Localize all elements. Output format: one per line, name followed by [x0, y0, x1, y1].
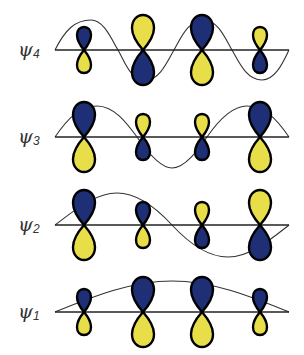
psi-1-symbol: ψ	[18, 300, 34, 322]
lobe-blue	[191, 277, 213, 312]
lobe-yellow	[77, 50, 91, 73]
svg-text:ψ4: ψ4	[18, 38, 40, 61]
orbital-psi-3: ψ3	[18, 102, 289, 172]
lobe-yellow	[249, 137, 271, 172]
lobe-blue	[249, 102, 271, 137]
lobe-yellow	[132, 312, 154, 347]
psi-2-subscript: 2	[32, 222, 40, 236]
lobe-yellow	[132, 15, 154, 50]
lobe-yellow	[136, 114, 150, 137]
lobe-yellow	[136, 225, 150, 248]
orbital-psi-1: ψ1	[18, 277, 289, 347]
lobe-blue	[136, 137, 150, 160]
psi-4-symbol: ψ	[18, 38, 34, 60]
lobe-blue	[77, 27, 91, 50]
lobe-yellow	[195, 114, 209, 137]
lobe-yellow	[253, 27, 267, 50]
svg-text:ψ1: ψ1	[18, 300, 40, 323]
lobe-yellow	[191, 312, 213, 347]
lobe-blue	[77, 289, 91, 312]
lobe-yellow	[249, 190, 271, 225]
lobe-blue	[136, 202, 150, 225]
psi-1-subscript: 1	[33, 309, 40, 323]
lobe-blue	[253, 50, 267, 73]
psi-2-symbol: ψ	[18, 213, 34, 235]
lobe-blue	[253, 289, 267, 312]
lobe-yellow	[191, 50, 213, 85]
lobe-blue	[132, 50, 154, 85]
lobe-yellow	[253, 312, 267, 335]
lobe-yellow	[73, 137, 95, 172]
psi-3-subscript: 3	[33, 134, 40, 148]
psi-4-subscript: 4	[33, 47, 40, 61]
molecular-orbital-diagram: ψ4 ψ3	[0, 0, 304, 355]
lobe-blue	[73, 190, 95, 225]
lobe-blue	[195, 225, 209, 248]
lobe-yellow	[77, 312, 91, 335]
psi-3-symbol: ψ	[18, 125, 34, 147]
lobe-blue	[73, 102, 95, 137]
lobe-blue	[191, 15, 213, 50]
lobe-yellow	[195, 202, 209, 225]
svg-text:ψ2: ψ2	[18, 213, 40, 236]
orbital-psi-2: ψ2	[18, 190, 289, 260]
svg-text:ψ3: ψ3	[18, 125, 40, 148]
lobe-yellow	[73, 225, 95, 260]
lobe-blue	[249, 225, 271, 260]
orbital-psi-4: ψ4	[18, 15, 289, 85]
lobe-blue	[132, 277, 154, 312]
lobe-blue	[195, 137, 209, 160]
